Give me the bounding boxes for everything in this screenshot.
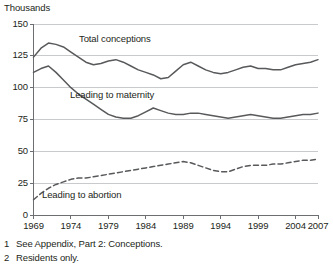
y-tick-100: 100 xyxy=(2,81,28,92)
x-tick-1989: 1989 xyxy=(166,220,200,231)
footnote-2-text: Residents only. xyxy=(16,252,79,263)
footnote-2-number: 2 xyxy=(4,252,9,263)
y-tick-75: 75 xyxy=(2,113,28,124)
x-tick-1974: 1974 xyxy=(54,220,88,231)
x-tick-1969: 1969 xyxy=(17,220,51,231)
series-label-total-conceptions: Total conceptions xyxy=(79,33,151,44)
x-tick-1979: 1979 xyxy=(91,220,125,231)
series-line-0 xyxy=(34,43,319,79)
series-label-leading-to-maternity: Leading to maternity xyxy=(70,89,154,100)
y-tick-125: 125 xyxy=(2,49,28,60)
footnote-1-number: 1 xyxy=(4,238,9,249)
y-tick-50: 50 xyxy=(2,145,28,156)
x-tick-2007: 2007 xyxy=(301,220,333,231)
y-tick-25: 25 xyxy=(2,177,28,188)
y-tick-150: 150 xyxy=(2,18,28,29)
footnote-1-text: See Appendix, Part 2: Conceptions. xyxy=(16,238,163,249)
x-tick-1999: 1999 xyxy=(241,220,275,231)
series-label-leading-to-abortion: Leading to abortion xyxy=(42,189,121,200)
x-tick-1984: 1984 xyxy=(129,220,163,231)
x-tick-1994: 1994 xyxy=(204,220,238,231)
y-tick-0: 0 xyxy=(2,209,28,220)
